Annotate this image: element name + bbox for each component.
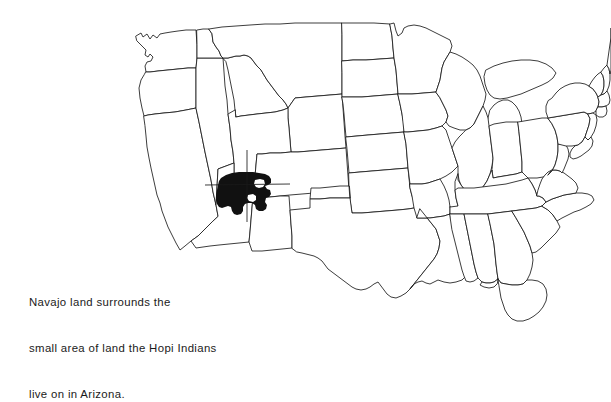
state-wyoming [288, 94, 346, 152]
caption-line-2: small area of land the Hopi Indians [29, 341, 329, 356]
state-ohio [518, 118, 558, 178]
caption-line-1: Navajo land surrounds the [29, 295, 329, 310]
state-nebraska [342, 94, 404, 137]
state-kansas [346, 132, 408, 173]
state-indiana [489, 122, 522, 178]
map-caption: Navajo land surrounds the small area of … [29, 265, 329, 402]
state-north-dakota [342, 23, 394, 61]
state-oregon [139, 68, 196, 116]
state-connecticut [596, 106, 607, 117]
caption-line-3: live on in Arizona. [29, 387, 329, 402]
state-south-dakota [342, 58, 398, 97]
